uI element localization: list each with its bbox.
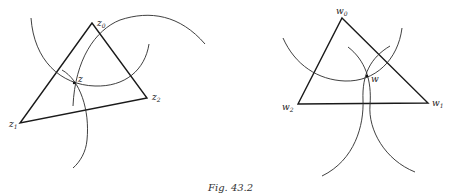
arc-w-1 bbox=[283, 28, 402, 81]
figure-canvas: z0 z1 z2 z w0 w1 w2 w Fig. 43.2 bbox=[0, 0, 450, 193]
label-z2: z2 bbox=[151, 92, 161, 103]
arc-1 bbox=[31, 18, 149, 86]
right-figure: w0 w1 w2 w bbox=[282, 6, 444, 176]
label-w2: w2 bbox=[282, 102, 294, 113]
left-figure: z0 z1 z2 z bbox=[8, 15, 205, 168]
figure-caption: Fig. 43.2 bbox=[207, 182, 253, 193]
triangle-z bbox=[20, 23, 147, 123]
point-z bbox=[73, 82, 75, 84]
label-w: w bbox=[371, 74, 379, 84]
label-z: z bbox=[77, 74, 83, 84]
label-w0: w0 bbox=[336, 6, 348, 17]
arc-w-3 bbox=[348, 47, 415, 172]
point-w bbox=[366, 75, 368, 77]
arc-2 bbox=[73, 15, 205, 106]
arc-w-2 bbox=[322, 46, 390, 176]
label-w1: w1 bbox=[432, 98, 444, 109]
label-z0: z0 bbox=[96, 18, 106, 29]
label-z1: z1 bbox=[8, 119, 18, 130]
